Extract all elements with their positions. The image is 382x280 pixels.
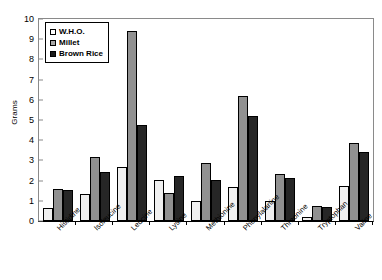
y-tick-mark <box>39 200 43 201</box>
y-tick-mark <box>39 140 43 141</box>
legend-label-millet: Millet <box>59 39 79 47</box>
bar-group <box>113 19 150 221</box>
y-tick-mark <box>39 180 43 181</box>
x-label-cell: Lysine <box>150 224 187 278</box>
legend-swatch-millet-icon <box>50 40 56 46</box>
bar <box>117 167 127 221</box>
y-tick-label: 8 <box>29 55 39 64</box>
bar <box>349 143 359 221</box>
y-tick-label: 4 <box>29 136 39 145</box>
y-tick-mark <box>39 120 43 121</box>
bar <box>359 152 369 221</box>
bar <box>43 208 53 221</box>
y-tick-mark <box>39 99 43 100</box>
bar-group <box>336 19 373 221</box>
bar <box>164 193 174 221</box>
x-label-cell: Methionine <box>187 224 224 278</box>
legend-swatch-brown-rice-icon <box>50 51 56 57</box>
y-axis-title: Grams <box>10 78 19 148</box>
y-tick-label: 7 <box>29 75 39 84</box>
bar <box>137 125 147 221</box>
legend-item-brown-rice: Brown Rice <box>50 48 103 59</box>
legend-item-who: W.H.O. <box>50 26 103 37</box>
bar <box>312 206 322 221</box>
y-tick-mark <box>39 221 43 222</box>
x-axis-labels: HistidineIsoleucineLeucineLysineMethioni… <box>38 224 374 278</box>
y-tick-mark <box>39 39 43 40</box>
x-label-cell: Phenylalanine <box>225 224 262 278</box>
x-label-cell: Threonine <box>262 224 299 278</box>
x-label-cell: Isoleucine <box>75 224 112 278</box>
bar-group <box>187 19 224 221</box>
y-tick-label: 9 <box>29 35 39 44</box>
bar-group <box>262 19 299 221</box>
bar <box>191 201 201 221</box>
bar <box>238 96 248 221</box>
x-label-cell: Histidine <box>38 224 75 278</box>
bar <box>302 217 312 221</box>
y-tick-mark <box>39 160 43 161</box>
y-tick-label: 2 <box>29 176 39 185</box>
bar-group <box>299 19 336 221</box>
bar <box>201 163 211 221</box>
y-tick-label: 10 <box>24 15 39 24</box>
bar <box>53 189 63 221</box>
x-label-cell: Leucine <box>113 224 150 278</box>
x-label-cell: Valine <box>337 224 374 278</box>
bar <box>80 194 90 221</box>
legend-label-brown-rice: Brown Rice <box>59 50 103 58</box>
x-label-cell: Tryptophan <box>299 224 336 278</box>
y-tick-label: 1 <box>29 196 39 205</box>
legend-swatch-who-icon <box>50 29 56 35</box>
bar <box>154 180 164 221</box>
y-tick-mark <box>39 79 43 80</box>
bar-group <box>225 19 262 221</box>
legend-label-who: W.H.O. <box>59 28 85 36</box>
bar <box>90 157 100 221</box>
bar <box>127 31 137 221</box>
legend-item-millet: Millet <box>50 37 103 48</box>
y-tick-label: 3 <box>29 156 39 165</box>
chart-legend: W.H.O. Millet Brown Rice <box>45 22 109 63</box>
bar <box>248 116 258 221</box>
y-tick-mark <box>39 59 43 60</box>
y-tick-label: 6 <box>29 95 39 104</box>
y-tick-mark <box>39 19 43 20</box>
y-tick-label: 5 <box>29 116 39 125</box>
bar-chart: Grams 012345678910 HistidineIsoleucineLe… <box>0 0 382 280</box>
bar-group <box>150 19 187 221</box>
